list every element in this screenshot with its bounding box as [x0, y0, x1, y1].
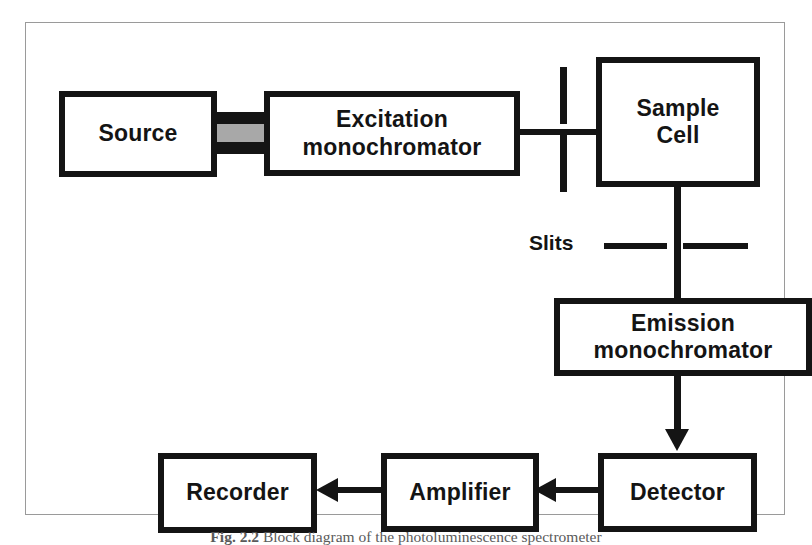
- slits-label: Slits: [529, 231, 573, 255]
- figure-border: Slits Source Excitation monochromator Sa…: [25, 22, 785, 515]
- connector-excitation-to-sample: [517, 129, 599, 135]
- block-excitation-monochromator-label: Excitation monochromator: [303, 106, 482, 160]
- entrance-slit-lower: [560, 135, 567, 192]
- block-emission-monochromator-label: Emission monochromator: [594, 310, 773, 364]
- block-detector-label: Detector: [630, 479, 725, 506]
- light-beam-connector: [213, 112, 267, 154]
- figure-caption-text: Block diagram of the photoluminescence s…: [263, 528, 602, 545]
- block-detector: Detector: [598, 453, 757, 532]
- figure-caption: Fig. 2.2 Block diagram of the photolumin…: [0, 528, 812, 545]
- entrance-slit-upper: [560, 67, 567, 124]
- arrowhead-down-to-detector: [665, 429, 689, 451]
- figure-caption-number: Fig. 2.2: [210, 528, 259, 545]
- block-amplifier-label: Amplifier: [409, 479, 510, 506]
- emission-slit-left: [604, 243, 667, 249]
- block-recorder: Recorder: [158, 453, 317, 533]
- light-beam-core: [213, 124, 267, 142]
- block-emission-monochromator: Emission monochromator: [554, 298, 812, 376]
- block-sample-cell-label: Sample Cell: [636, 95, 719, 149]
- block-source: Source: [59, 91, 217, 177]
- figure-canvas: Slits Source Excitation monochromator Sa…: [0, 0, 812, 545]
- block-source-label: Source: [98, 120, 177, 147]
- block-amplifier: Amplifier: [381, 453, 539, 532]
- block-excitation-monochromator: Excitation monochromator: [264, 91, 520, 176]
- block-recorder-label: Recorder: [186, 479, 289, 506]
- connector-sample-to-emission: [674, 183, 681, 302]
- block-sample-cell: Sample Cell: [596, 57, 760, 187]
- arrowhead-left-to-recorder: [316, 478, 338, 502]
- emission-slit-right: [683, 243, 748, 249]
